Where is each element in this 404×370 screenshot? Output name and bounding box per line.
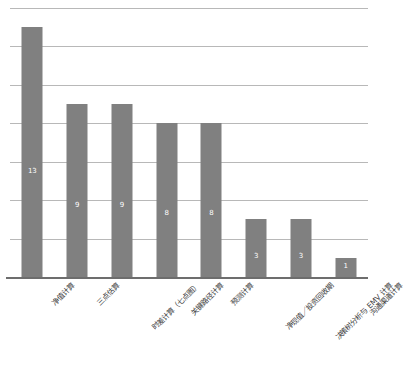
category-label: 预测计算 <box>230 281 256 307</box>
category-label: 决策树分析与 EMV 计算 <box>333 281 394 342</box>
bar-slot: 8 <box>144 8 189 277</box>
bars-group: 139988331 <box>10 8 368 277</box>
bar-value-label: 1 <box>335 262 356 270</box>
bar[interactable]: 8 <box>156 123 177 277</box>
bar-slot: 3 <box>279 8 324 277</box>
category-label: 三点估算 <box>95 281 121 307</box>
bar[interactable]: 3 <box>246 219 267 277</box>
bar[interactable]: 13 <box>22 27 43 277</box>
bar[interactable]: 9 <box>67 104 88 277</box>
bar[interactable]: 8 <box>201 123 222 277</box>
bar[interactable]: 9 <box>111 104 132 277</box>
category-labels-group: 净值计算三点估算时差计算（七点图）关键路径计算预测计算净现值／投资回收期决策树分… <box>10 279 368 370</box>
bar-slot: 9 <box>100 8 145 277</box>
bar-value-label: 9 <box>111 201 132 209</box>
bar-value-label: 8 <box>201 209 222 217</box>
bar-slot: 3 <box>234 8 279 277</box>
bar[interactable]: 1 <box>335 258 356 277</box>
bar-slot: 8 <box>189 8 234 277</box>
bar-slot: 9 <box>55 8 100 277</box>
bar-value-label: 3 <box>290 252 311 260</box>
bar-value-label: 9 <box>67 201 88 209</box>
bar-value-label: 8 <box>156 209 177 217</box>
bar-slot: 13 <box>10 8 55 277</box>
bar-slot: 1 <box>323 8 368 277</box>
bar-value-label: 13 <box>22 167 43 175</box>
category-label: 净值计算 <box>51 281 77 307</box>
category-label: 净现值／投资回收期 <box>285 281 336 332</box>
bar-value-label: 3 <box>246 252 267 260</box>
bar[interactable]: 3 <box>290 219 311 277</box>
